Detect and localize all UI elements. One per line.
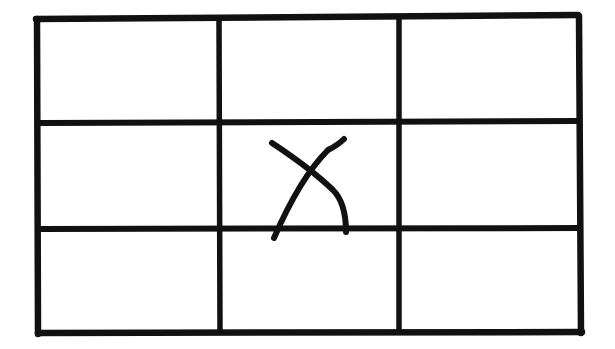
outer-frame-top xyxy=(36,15,578,19)
horizontal-divider-1 xyxy=(40,121,578,123)
cell-r0-c2 xyxy=(402,21,577,120)
cell-r2-c0 xyxy=(41,232,217,330)
cell-r2-c2 xyxy=(402,232,577,330)
cell-r1-c2 xyxy=(402,126,577,226)
cell-r0-c0 xyxy=(41,21,217,120)
outer-frame-bottom xyxy=(38,332,582,333)
horizontal-divider-2 xyxy=(40,228,580,229)
cell-r0-c1 xyxy=(222,21,397,120)
grid-diagram xyxy=(0,0,615,349)
outer-frame-right xyxy=(579,16,581,333)
vertical-divider-1 xyxy=(219,20,220,331)
cell-r2-c1 xyxy=(222,232,397,330)
outer-frame-left xyxy=(37,19,38,334)
cell-r1-c0 xyxy=(41,126,217,226)
